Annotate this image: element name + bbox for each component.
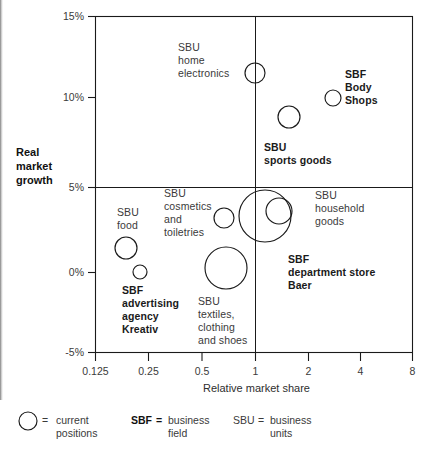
bubble-sbu-cosmetics-toiletries xyxy=(214,208,234,228)
legend-sbf-equals: = xyxy=(156,414,162,427)
label-sbu-sports-goods-line1: SBU xyxy=(264,141,286,154)
bubble-sbf-department-store-baer xyxy=(239,190,291,242)
label-sbu-cosmetics-line1: SBU xyxy=(164,187,186,200)
y-axis-title-line3: growth xyxy=(16,174,53,188)
label-sbf-body-shops-line1: SBF xyxy=(345,68,366,81)
label-sbf-advertising-line4: Kreativ xyxy=(122,323,158,336)
legend-sbu-key: SBU xyxy=(233,414,255,427)
y-tick-5: 5% xyxy=(48,181,84,193)
x-axis-title: Relative market share xyxy=(203,382,310,396)
label-sbf-advertising-line1: SBF xyxy=(122,284,143,297)
y-axis-title-line2: market xyxy=(16,160,52,174)
label-sbu-home-electronics-line1: SBU xyxy=(178,41,200,54)
label-sbu-cosmetics-line4: toiletries xyxy=(164,226,204,239)
label-sbu-home-electronics-line3: electronics xyxy=(178,67,229,80)
bubble-sbu-sports-goods xyxy=(278,106,300,128)
label-sbf-department-store-line2: department store xyxy=(288,266,375,279)
x-tick-05: 0.5 xyxy=(186,365,218,377)
legend-circle-text-line1: current xyxy=(56,414,89,427)
label-sbu-textiles-line1: SBU xyxy=(198,295,220,308)
legend-circle-equals: = xyxy=(42,414,48,427)
label-sbf-advertising-line2: advertising xyxy=(122,297,179,310)
x-tick-2: 2 xyxy=(298,365,319,377)
x-tick-1: 1 xyxy=(245,365,266,377)
label-sbu-cosmetics-line3: and xyxy=(164,213,182,226)
bubble-sbu-household-goods xyxy=(266,198,292,224)
bubble-sbf-advertising-agency-kreativ xyxy=(133,265,147,279)
y-tick-15: 15% xyxy=(48,10,84,22)
label-sbu-sports-goods-line2: sports goods xyxy=(264,154,332,167)
label-sbu-textiles-line4: and shoes xyxy=(198,334,247,347)
label-sbf-body-shops-line2: Body xyxy=(345,81,372,94)
legend-sbf-text-line2: field xyxy=(168,427,187,440)
legend-sbu-text-line1: business xyxy=(270,414,311,427)
y-tick-0: 0% xyxy=(48,266,84,278)
y-tick-minus5: -5% xyxy=(44,346,84,358)
bubble-sbf-body-shops xyxy=(325,90,341,106)
label-sbu-food-line2: food xyxy=(117,219,138,232)
x-tick-8: 8 xyxy=(402,365,423,377)
label-sbf-body-shops-line3: Shops xyxy=(345,94,378,107)
y-tick-10: 10% xyxy=(48,91,84,103)
bubble-sbu-textiles-clothing-shoes xyxy=(205,247,247,289)
label-sbu-textiles-line2: textiles, xyxy=(198,308,235,321)
bubble-sbu-food xyxy=(115,237,137,259)
bcg-matrix-chart: 15% 10% 5% 0% -5% 0.125 0.25 0.5 1 2 4 8… xyxy=(0,0,425,400)
label-sbf-advertising-line3: agency xyxy=(122,310,159,323)
x-tick-025: 0.25 xyxy=(130,365,167,377)
label-sbu-cosmetics-line2: cosmetics xyxy=(164,200,212,213)
label-sbu-home-electronics-line2: home xyxy=(178,54,205,67)
x-axis-ticks xyxy=(96,353,413,362)
label-sbu-textiles-line3: clothing xyxy=(198,321,235,334)
legend-circle-icon xyxy=(19,412,37,430)
legend-sbu-equals: = xyxy=(258,414,264,427)
label-sbu-household-line2: household xyxy=(315,202,364,215)
label-sbf-department-store-line1: SBF xyxy=(288,253,309,266)
label-sbu-food-line1: SBU xyxy=(117,206,139,219)
legend-sbu-text-line2: units xyxy=(270,427,292,440)
x-tick-0125: 0.125 xyxy=(75,365,116,377)
x-tick-4: 4 xyxy=(350,365,371,377)
legend-sbf-key: SBF xyxy=(131,414,152,427)
label-sbu-household-line1: SBU xyxy=(315,189,337,202)
label-sbu-household-line3: goods xyxy=(315,215,344,228)
chart-legend: = current positions SBF = business field… xyxy=(0,400,425,460)
y-axis-title-line1: Real xyxy=(16,146,39,160)
legend-circle-text-line2: positions xyxy=(56,427,97,440)
legend-sbf-text-line1: business xyxy=(168,414,209,427)
y-axis-ticks xyxy=(88,17,95,353)
label-sbf-department-store-line3: Baer xyxy=(288,279,312,292)
